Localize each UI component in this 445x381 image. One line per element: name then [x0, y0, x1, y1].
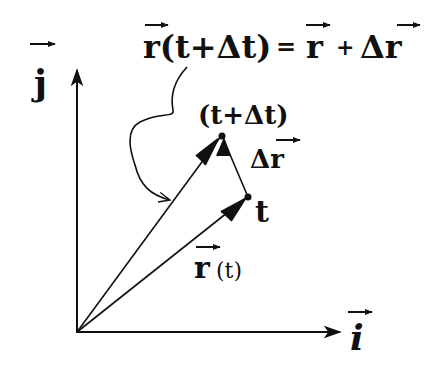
label-t-dt: (t+Δt): [198, 100, 289, 130]
equation-rhs-delta-r: Δr: [360, 28, 403, 66]
equation-rhs-r: r: [306, 28, 324, 66]
arrowhead-icon: [196, 139, 218, 165]
point-t-dt: [219, 133, 226, 140]
point-t: [245, 194, 252, 201]
kinematics-vector-diagram: r(t+Δt) = r + Δr j i (t+Δt) t Δr r (: [0, 0, 445, 381]
x-axis-label: i: [348, 312, 372, 358]
arrowhead-icon: [217, 140, 230, 156]
svg-text:Δr: Δr: [250, 144, 284, 174]
svg-text:(t): (t): [216, 258, 242, 283]
svg-text:i: i: [350, 316, 364, 358]
y-axis-label: j: [30, 44, 55, 103]
svg-text:j: j: [31, 61, 47, 103]
arrowhead-icon: [221, 199, 245, 221]
svg-text:r: r: [194, 250, 211, 285]
label-t: t: [255, 194, 269, 229]
equation-lhs: r(t+Δt): [143, 28, 271, 66]
r-t-label: r (t): [194, 247, 242, 285]
callout-curved-arrow: [130, 67, 187, 200]
equation-plus: +: [336, 34, 354, 60]
delta-r-label: Δr: [250, 140, 300, 174]
equation-equals: =: [276, 32, 296, 61]
title-equation: r(t+Δt) = r + Δr: [143, 25, 420, 66]
